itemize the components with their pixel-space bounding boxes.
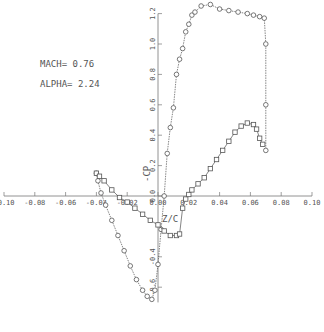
circle-marker [217, 7, 222, 12]
square-marker [208, 166, 212, 170]
circle-marker [165, 151, 170, 156]
square-marker [184, 197, 188, 201]
circle-marker [187, 22, 192, 27]
x-tick-label: -0.10 [0, 199, 15, 207]
circle-marker [264, 103, 269, 108]
circle-marker [264, 42, 269, 47]
circle-marker [236, 10, 241, 15]
circle-marker [245, 11, 250, 16]
square-marker [245, 121, 249, 125]
y-tick-label: 0.8 [149, 68, 157, 81]
circle-marker [122, 248, 127, 253]
x-axis-label: Z/C [162, 214, 178, 224]
square-marker [239, 124, 243, 128]
y-tick-label: 0.4 [149, 129, 157, 142]
square-marker [125, 200, 129, 204]
circle-marker [177, 57, 182, 62]
circle-marker [153, 288, 158, 293]
data-series [94, 2, 268, 301]
square-marker [140, 212, 144, 216]
y-tick-label: 0.6 [149, 98, 157, 111]
y-tick-label: -0.4 [149, 248, 157, 265]
circle-marker [193, 10, 198, 15]
square-marker [190, 188, 194, 192]
square-marker [156, 223, 160, 227]
x-tick-label: 0.06 [242, 199, 259, 207]
y-tick-label: 1.0 [149, 38, 157, 51]
square-marker [162, 229, 166, 233]
square-marker [261, 142, 265, 146]
square-marker [233, 130, 237, 134]
y-tick-label: 1.2 [149, 7, 157, 20]
x-tick-label: -0.08 [24, 199, 45, 207]
circle-marker [134, 277, 139, 282]
circle-marker [116, 233, 121, 238]
circle-marker [162, 194, 167, 199]
circle-marker [168, 125, 173, 130]
square-marker [257, 136, 261, 140]
circle-marker [110, 218, 115, 223]
square-marker [117, 195, 121, 199]
square-marker [180, 206, 184, 210]
square-marker [214, 157, 218, 161]
square-marker [102, 179, 106, 183]
circle-marker [251, 13, 256, 18]
square-marker [227, 139, 231, 143]
square-marker [254, 127, 258, 131]
square-marker [202, 176, 206, 180]
square-marker [148, 218, 152, 222]
circle-marker [264, 148, 269, 153]
x-tick-label: 0.08 [273, 199, 290, 207]
circle-marker [208, 2, 213, 7]
circle-marker [257, 14, 262, 19]
square-marker [177, 232, 181, 236]
circle-marker [128, 264, 133, 269]
mach-annotation: MACH= 0.76 [40, 59, 94, 69]
circle-marker [183, 30, 188, 35]
circle-marker [103, 203, 108, 208]
circle-marker [150, 297, 155, 302]
square-marker [251, 122, 255, 126]
circle-marker [174, 72, 179, 77]
cp-chart: -0.10-0.08-0.06-0.04-0.020.000.020.040.0… [0, 0, 324, 332]
circle-marker [96, 179, 101, 184]
circle-marker [180, 46, 185, 51]
y-axis-label: -CP [142, 165, 152, 182]
axes: -0.10-0.08-0.06-0.04-0.020.000.020.040.0… [0, 7, 320, 302]
square-marker [220, 148, 224, 152]
circle-marker [199, 4, 204, 9]
square-marker [97, 174, 101, 178]
alpha-annotation: ALPHA= 2.24 [40, 79, 100, 89]
circle-marker [227, 8, 232, 13]
circle-marker [99, 191, 104, 196]
square-marker [110, 188, 114, 192]
circle-marker [156, 262, 161, 267]
circle-marker [140, 288, 145, 293]
x-tick-label: 0.10 [304, 199, 321, 207]
circle-marker [262, 16, 267, 21]
square-marker [133, 206, 137, 210]
square-marker [187, 192, 191, 196]
x-tick-label: 0.04 [211, 199, 228, 207]
circle-marker [145, 294, 150, 299]
y-tick-label: 0.0 [149, 190, 157, 203]
lower-surface-squares-line [96, 123, 262, 236]
square-marker [168, 233, 172, 237]
x-tick-label: -0.06 [55, 199, 76, 207]
square-marker [196, 182, 200, 186]
circle-marker [171, 106, 176, 111]
